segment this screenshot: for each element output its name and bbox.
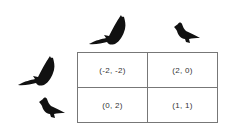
row-hawk: (-2, -2) (2, 0): [78, 53, 218, 88]
row-dove: (0, 2) (1, 1): [78, 88, 218, 123]
cell-hawk-dove: (2, 0): [148, 53, 218, 88]
cell-hawk-hawk: (-2, -2): [78, 53, 148, 88]
column-hawk-icon: [88, 12, 128, 47]
row-hawk-icon: [17, 53, 57, 88]
cell-dove-hawk: (0, 2): [78, 88, 148, 123]
column-dove-icon: [172, 21, 202, 45]
cell-dove-dove: (1, 1): [148, 88, 218, 123]
row-dove-icon: [37, 96, 67, 120]
payoff-matrix: (-2, -2) (2, 0) (0, 2) (1, 1): [77, 52, 218, 123]
